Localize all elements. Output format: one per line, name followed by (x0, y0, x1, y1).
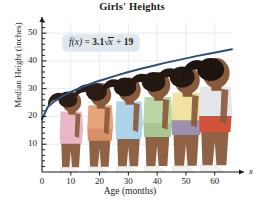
x-tick-label: 40 (147, 176, 167, 186)
equation-constant: 19 (124, 37, 134, 47)
x-axis-end-label: x (249, 166, 253, 176)
x-axis-label: Age (months) (30, 186, 230, 196)
equation-radicand: x (108, 37, 113, 48)
equation-equals: = (85, 37, 90, 47)
chart-figure: Girls' Heights f(x) = 3.1√x + 19 Median … (0, 0, 264, 206)
x-tick-label: 50 (176, 176, 196, 186)
x-tick-label: 0 (32, 176, 52, 186)
equation-argument: (x) (72, 37, 83, 47)
x-tick-label: 20 (90, 176, 110, 186)
y-tick-label: 50 (17, 27, 37, 37)
y-tick-label: 40 (17, 55, 37, 65)
y-tick-label: 30 (17, 83, 37, 93)
x-tick-label: 30 (118, 176, 138, 186)
y-tick-label: 20 (17, 110, 37, 120)
x-tick-label: 60 (205, 176, 225, 186)
equation-plus: + (116, 37, 121, 47)
x-tick-label: 10 (61, 176, 81, 186)
y-tick-label: 10 (17, 138, 37, 148)
equation-annotation: f(x) = 3.1√x + 19 (63, 35, 139, 51)
child-figure-group (48, 58, 233, 172)
equation-coefficient: 3.1 (92, 37, 104, 47)
